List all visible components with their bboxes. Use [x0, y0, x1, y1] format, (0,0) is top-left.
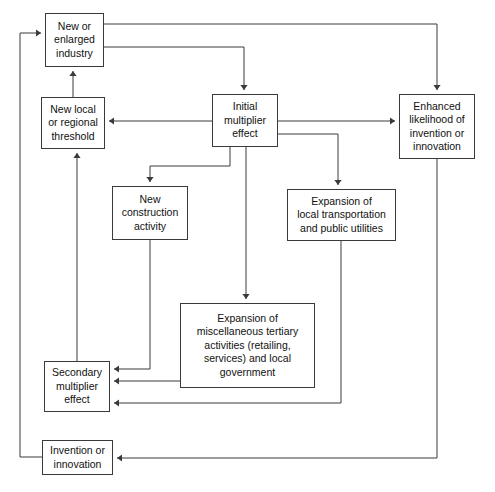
edge-industry-to-initial-multiplier	[104, 47, 248, 90]
node-expansion-of-local-transportation-and-public-utilities[interactable]: Expansion of local transportation and pu…	[287, 189, 396, 241]
edge-initial-multiplier-to-threshold	[109, 117, 212, 124]
edge-initial-multiplier-to-new-construction	[146, 147, 230, 182]
edge-expansion-tertiary-to-secondary-multiplier	[114, 377, 180, 384]
edge-initial-multiplier-to-enhanced-likelihood	[278, 117, 395, 124]
edge-initial-multiplier-to-expansion-tertiary	[242, 147, 249, 299]
node-initial-multiplier-effect[interactable]: Initial multiplier effect	[212, 94, 278, 147]
node-new-or-enlarged-industry[interactable]: New or enlarged industry	[45, 13, 104, 67]
edge-secondary-multiplier-to-threshold	[73, 153, 80, 361]
edge-new-construction-to-secondary-multiplier	[114, 240, 150, 373]
edge-industry-to-enhanced-likelihood	[104, 24, 441, 90]
edge-threshold-to-industry	[69, 71, 76, 97]
flowchart-canvas: New or enlarged industryNew local or reg…	[0, 0, 495, 492]
node-expansion-of-miscellaneous-tertiary-activities[interactable]: Expansion of miscellaneous tertiary acti…	[180, 303, 315, 388]
edge-invention-to-industry	[20, 29, 42, 457]
edge-initial-multiplier-to-expansion-transportation	[278, 134, 342, 185]
node-secondary-multiplier-effect[interactable]: Secondary multiplier effect	[44, 361, 110, 412]
node-new-construction-activity[interactable]: New construction activity	[112, 186, 188, 240]
node-invention-or-innovation[interactable]: Invention or innovation	[42, 440, 113, 475]
node-new-local-or-regional-threshold[interactable]: New local or regional threshold	[41, 97, 105, 149]
node-enhanced-likelihood-of-invention-or-innovation[interactable]: Enhanced likelihood of invention or inno…	[399, 94, 475, 159]
flowchart-edges	[0, 0, 495, 492]
